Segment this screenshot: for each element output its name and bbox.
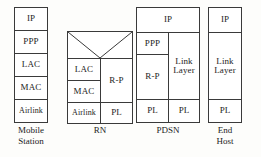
layer-link-layer-end-host: Link Layer (208, 32, 242, 100)
layer-ppp-pdsn: PPP (136, 32, 169, 55)
stack-pdsn: IP PPP R-P PL Link Layer PL (136, 7, 200, 124)
node-label-end-host: End Host (200, 125, 250, 147)
layer-lac-rn: LAC (67, 58, 101, 81)
layer-mac-mobile-station: MAC (14, 76, 48, 100)
protocol-stack-diagram: IP PPP LAC MAC Airlink Mobile Station LA… (0, 0, 261, 157)
layer-ip-end-host: IP (208, 7, 242, 33)
node-label-pdsn: PDSN (143, 125, 193, 136)
layer-lac-mobile-station: LAC (14, 53, 48, 77)
stack-end-host: IP Link Layer PL (208, 7, 242, 124)
stack-rn: LAC MAC Airlink R-P PL (67, 31, 133, 124)
layer-airlink-mobile-station: Airlink (14, 99, 48, 123)
layer-airlink-rn: Airlink (67, 102, 101, 124)
layer-pl-rn: PL (100, 102, 133, 124)
layer-ip-mobile-station: IP (14, 7, 48, 31)
node-label-mobile-station: Mobile Station (6, 125, 56, 147)
layer-mac-rn: MAC (67, 80, 101, 103)
layer-pl-end-host: PL (208, 99, 242, 123)
layer-ip-pdsn: IP (136, 7, 200, 33)
crossover-lines-icon (67, 31, 133, 59)
layer-ppp-mobile-station: PPP (14, 30, 48, 54)
node-label-rn: RN (75, 125, 125, 136)
layer-link-layer-pdsn: Link Layer (168, 32, 200, 100)
layer-rp-rn: R-P (100, 58, 133, 103)
layer-pl-pdsn-left: PL (136, 99, 169, 123)
layer-pl-pdsn-right: PL (168, 99, 200, 123)
layer-rp-pdsn: R-P (136, 54, 169, 100)
stack-mobile-station: IP PPP LAC MAC Airlink (14, 7, 48, 124)
